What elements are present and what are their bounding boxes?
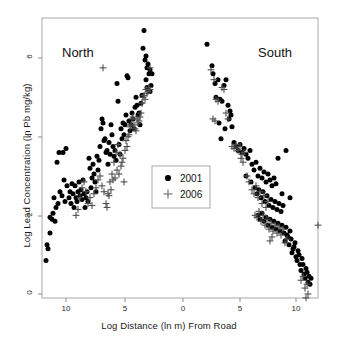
data-point-2001 [99, 126, 104, 131]
data-point-2001 [205, 42, 210, 47]
series-2001-markers [44, 28, 314, 287]
data-point-2006 [108, 186, 115, 193]
data-point-2006 [121, 179, 128, 186]
data-point-2006 [104, 204, 111, 211]
data-point-2001 [297, 252, 302, 257]
data-point-2001 [252, 168, 257, 173]
data-point-2001 [83, 205, 88, 210]
data-point-2001 [130, 111, 135, 116]
data-point-2006 [109, 171, 116, 178]
data-point-2001 [134, 95, 139, 100]
x-tick-label-0: 10 [54, 304, 78, 313]
data-point-2006 [99, 182, 106, 189]
panel-label-north: North [62, 45, 94, 60]
data-point-2001 [92, 172, 97, 177]
data-point-2001 [71, 191, 76, 196]
data-point-2001 [64, 146, 69, 151]
scatter-plot-figure: North South 2001 2006 Log Distance (ln m… [0, 0, 338, 346]
legend-label-2001: 2001 [180, 173, 202, 184]
data-point-2001 [110, 132, 115, 137]
data-point-2001 [258, 166, 263, 171]
data-point-2001 [44, 258, 49, 263]
data-point-2006 [139, 100, 146, 107]
data-point-2001 [67, 195, 72, 200]
data-point-2001 [299, 268, 304, 273]
data-point-2001 [142, 28, 147, 33]
data-point-2001 [107, 140, 112, 145]
data-point-2006 [103, 200, 110, 207]
data-point-2001 [87, 156, 92, 161]
data-point-2001 [226, 103, 231, 108]
data-point-2001 [290, 250, 295, 255]
data-point-2001 [65, 183, 70, 188]
data-point-2006 [115, 141, 122, 148]
data-point-2001 [150, 71, 155, 76]
data-point-2001 [73, 183, 78, 188]
data-point-2001 [55, 160, 60, 165]
data-point-2001 [272, 175, 277, 180]
data-point-2001 [75, 199, 80, 204]
data-point-2001 [301, 262, 306, 267]
data-point-2006 [315, 222, 322, 229]
data-point-2001 [295, 258, 300, 263]
y-tick-label-3: 6 [25, 50, 34, 64]
x-axis-title: Log Distance (ln m) From Road [0, 320, 338, 331]
data-point-2001 [125, 73, 130, 78]
legend-marker-2001 [165, 175, 171, 181]
data-point-2001 [144, 77, 149, 82]
data-point-2001 [143, 57, 148, 62]
data-point-2001 [210, 63, 215, 68]
data-point-2001 [224, 77, 229, 82]
data-point-2001 [284, 148, 289, 153]
data-point-2001 [260, 175, 265, 180]
legend-label-2006: 2006 [180, 189, 202, 200]
data-point-2001 [274, 181, 279, 186]
x-tick-label-3: 5 [228, 304, 252, 313]
data-point-2001 [266, 172, 271, 177]
x-tick-label-1: 5 [113, 304, 137, 313]
x-tick-label-4: 10 [284, 304, 308, 313]
data-point-2001 [124, 113, 129, 118]
data-point-2001 [119, 126, 124, 131]
data-point-2006 [73, 212, 80, 219]
y-tick-label-0: 0 [25, 286, 34, 300]
data-point-2001 [96, 168, 101, 173]
y-axis-title: Log Lead Concentration (ln Pb mg/kg) [21, 36, 32, 296]
data-point-2006 [93, 184, 100, 191]
data-point-2001 [109, 122, 114, 127]
data-point-2001 [105, 148, 110, 153]
data-point-2006 [244, 173, 251, 180]
data-point-2001 [60, 193, 65, 198]
data-point-2001 [281, 203, 286, 208]
data-point-2001 [106, 162, 111, 167]
panel-label-south: South [258, 45, 292, 60]
x-tick-label-2: 0 [171, 304, 195, 313]
data-point-2006 [119, 159, 126, 166]
data-point-2001 [288, 195, 293, 200]
data-point-2001 [97, 158, 102, 163]
data-point-2001 [223, 126, 228, 131]
y-tick-label-1: 2 [25, 208, 34, 222]
data-point-2001 [48, 231, 53, 236]
data-point-2001 [53, 219, 58, 224]
data-point-2001 [69, 201, 74, 206]
y-axis-ticks [38, 58, 42, 294]
data-point-2001 [48, 215, 53, 220]
data-point-2001 [141, 46, 146, 51]
data-point-2006 [100, 64, 107, 71]
data-point-2001 [276, 156, 281, 161]
data-point-2001 [254, 160, 259, 165]
data-point-2006 [118, 163, 125, 170]
data-point-2001 [88, 166, 93, 171]
data-point-2001 [246, 156, 251, 161]
data-point-2001 [62, 177, 67, 182]
data-point-2001 [116, 99, 121, 104]
data-point-2001 [300, 256, 305, 261]
x-axis-ticks [66, 298, 296, 302]
data-point-2001 [280, 191, 285, 196]
data-point-2001 [230, 124, 235, 129]
data-point-2001 [115, 81, 120, 86]
data-point-2001 [103, 136, 108, 141]
data-point-2001 [309, 276, 314, 281]
data-point-2001 [219, 136, 224, 141]
